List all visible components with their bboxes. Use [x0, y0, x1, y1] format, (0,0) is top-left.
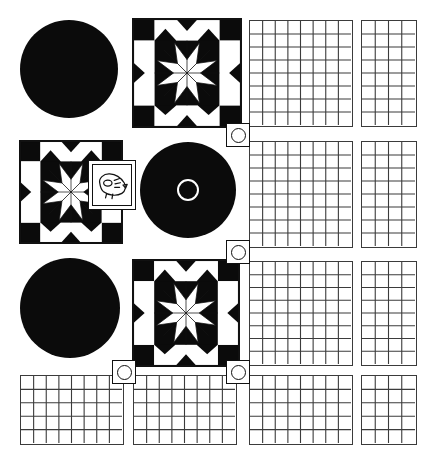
ring-marker-icon[interactable]	[226, 240, 250, 264]
graph-grid	[249, 375, 353, 445]
disc-with-hole-shape	[140, 142, 236, 238]
sketch-inner-frame	[92, 164, 132, 206]
graph-grid	[133, 375, 237, 445]
graph-grid	[361, 141, 417, 248]
solid-circle-shape	[20, 258, 120, 358]
ring-marker-circle	[117, 365, 132, 380]
graph-grid	[361, 20, 417, 127]
graph-grid	[361, 375, 417, 445]
solid-circle-shape	[20, 20, 118, 118]
ring-marker-circle	[231, 128, 246, 143]
ring-marker-icon[interactable]	[226, 123, 250, 147]
graph-grid	[361, 261, 417, 366]
disc-centre-ring	[177, 179, 199, 201]
graph-grid	[20, 375, 124, 445]
quilt-block-shape	[133, 260, 239, 366]
framed-sketch	[88, 160, 136, 210]
pattern-sheet-canvas	[0, 0, 431, 465]
ring-marker-circle	[231, 245, 246, 260]
ring-marker-icon[interactable]	[226, 360, 250, 384]
graph-grid	[249, 261, 353, 366]
quilt-block-shape	[133, 19, 241, 127]
ring-marker-icon[interactable]	[112, 360, 136, 384]
ring-marker-circle	[231, 365, 246, 380]
graph-grid	[249, 20, 353, 127]
graph-grid	[249, 141, 353, 248]
